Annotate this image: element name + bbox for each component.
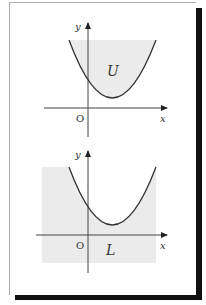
figure-canvas: y x O U y x O L: [0, 0, 206, 305]
bottom-graph: y x O L: [36, 149, 167, 273]
top-y-label: y: [74, 21, 81, 32]
bottom-origin-label: O: [76, 240, 84, 251]
top-x-label: x: [160, 113, 166, 124]
bottom-x-label: x: [160, 240, 166, 251]
bottom-y-label: y: [74, 149, 81, 160]
region-label-u: U: [107, 63, 120, 79]
region-label-l: L: [105, 242, 115, 258]
top-origin-label: O: [76, 113, 84, 124]
top-graph: y x O U: [44, 21, 167, 137]
lower-region-shading: [42, 167, 156, 263]
